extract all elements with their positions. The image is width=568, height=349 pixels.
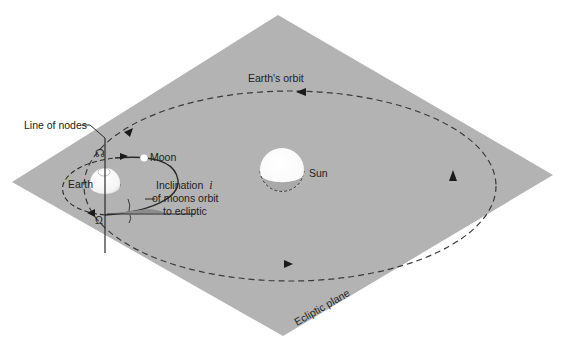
descending-node-symbol: Ω: [95, 214, 103, 226]
inclination-label-line2: of moons orbit: [152, 192, 219, 204]
sun: [260, 148, 304, 192]
line-of-nodes-label: Line of nodes: [24, 119, 87, 131]
earth-label: Earth: [68, 178, 93, 190]
sun-label: Sun: [309, 167, 328, 179]
moon-label: Moon: [150, 151, 176, 163]
inclination-symbol: i: [209, 178, 212, 192]
inclination-label-text: Inclination: [156, 179, 203, 191]
lunar-orbit-diagram: Earth's orbit Sun Earth Line of nodes ☊ …: [0, 0, 568, 349]
moon: [140, 154, 148, 162]
inclination-label-line3: to ecliptic: [163, 205, 207, 217]
ascending-node-symbol: ☊: [95, 147, 105, 159]
inclination-label-line1: Inclination i: [156, 178, 213, 192]
earths-orbit-label: Earth's orbit: [248, 72, 304, 84]
